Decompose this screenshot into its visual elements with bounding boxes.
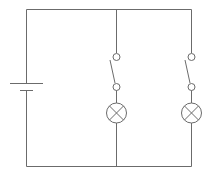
switch-icon — [110, 54, 120, 91]
switch-1-bottom-contact — [113, 84, 120, 91]
lamp-icon — [107, 103, 127, 123]
switch-1-top-contact — [113, 54, 120, 61]
wires — [27, 10, 192, 167]
battery-icon — [10, 84, 43, 91]
switch-2-top-contact — [188, 54, 195, 61]
switch-icon — [185, 54, 195, 91]
switch-2-bottom-contact — [188, 84, 195, 91]
branch-1 — [107, 10, 127, 167]
branch-2 — [182, 10, 202, 167]
switch-2-lever — [185, 60, 190, 83]
circuit-svg — [0, 0, 207, 173]
switch-1-lever — [110, 60, 115, 83]
lamp-icon — [182, 103, 202, 123]
circuit-diagram — [0, 0, 207, 173]
